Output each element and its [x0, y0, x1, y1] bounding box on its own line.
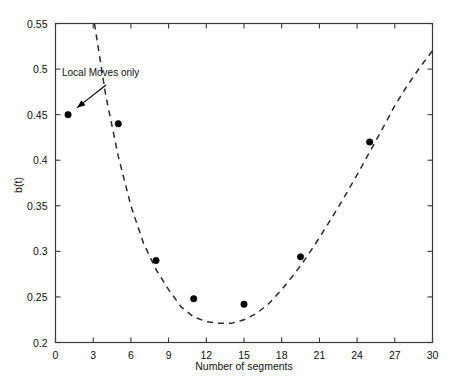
y-tick-label: 0.3	[33, 245, 48, 257]
data-point	[115, 121, 121, 127]
top-axis-ticks	[56, 24, 433, 29]
annotation-arrow	[77, 85, 106, 108]
data-point	[153, 257, 159, 263]
x-tick-label: 27	[389, 349, 401, 361]
x-tick-label: 30	[427, 349, 439, 361]
x-tick-label: 12	[200, 349, 212, 361]
data-point	[366, 139, 372, 145]
x-axis-ticks	[56, 338, 433, 343]
x-tick-label: 3	[90, 349, 96, 361]
right-axis-ticks	[428, 24, 433, 343]
data-points-group	[65, 111, 373, 307]
data-point	[191, 296, 197, 302]
y-axis-tick-labels: 0.20.250.30.350.40.450.50.55	[27, 18, 48, 349]
y-tick-label: 0.5	[33, 63, 48, 75]
x-tick-label: 6	[128, 349, 134, 361]
x-tick-label: 24	[351, 349, 363, 361]
scatter-plot-svg: 036912151821242730 0.20.250.30.350.40.45…	[0, 0, 457, 383]
y-tick-label: 0.35	[27, 200, 48, 212]
fitted-curve	[94, 24, 432, 324]
data-point	[297, 254, 303, 260]
y-tick-label: 0.4	[33, 154, 48, 166]
x-axis-tick-labels: 036912151821242730	[53, 349, 439, 361]
y-tick-label: 0.45	[27, 109, 48, 121]
x-tick-label: 0	[53, 349, 59, 361]
y-tick-label: 0.2	[33, 337, 48, 349]
data-point	[65, 111, 71, 117]
data-point	[241, 301, 247, 307]
y-axis-label: b(t)	[12, 177, 24, 193]
y-axis-ticks	[56, 24, 61, 343]
x-tick-label: 18	[276, 349, 288, 361]
x-tick-label: 9	[166, 349, 172, 361]
x-tick-label: 21	[314, 349, 326, 361]
y-tick-label: 0.25	[27, 291, 48, 303]
x-axis-label: Number of segments	[195, 360, 292, 372]
annotation-local-moves-only: Local Moves only	[62, 67, 139, 78]
y-tick-label: 0.55	[27, 18, 48, 30]
chart-figure: 036912151821242730 0.20.250.30.350.40.45…	[0, 0, 457, 383]
x-tick-label: 15	[238, 349, 250, 361]
